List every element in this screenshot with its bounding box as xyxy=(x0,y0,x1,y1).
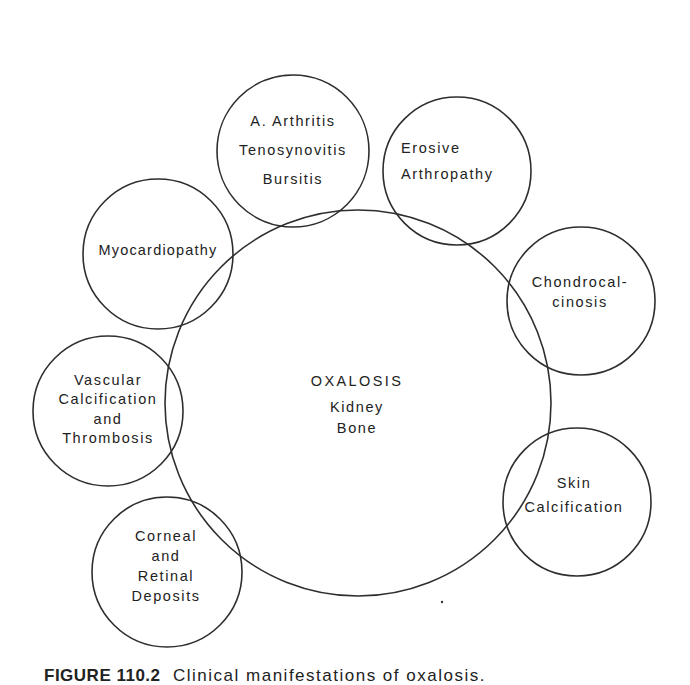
satellite-label: A. Arthritis xyxy=(250,113,335,129)
satellite-erosive-arthropathy: Erosive Arthropathy xyxy=(383,97,531,245)
satellite-label: Calcification xyxy=(525,499,624,515)
satellite-skin-calcification: Skin Calcification xyxy=(503,428,651,576)
print-speck xyxy=(441,601,443,603)
satellite-label: Bursitis xyxy=(263,171,323,187)
satellite-arthritis: A. Arthritis Tenosynovitis Bursitis xyxy=(217,75,369,227)
satellite-label: Tenosynovitis xyxy=(239,142,347,158)
satellite-corneal-retinal-deposits: Corneal and Retinal Deposits xyxy=(92,497,242,647)
satellite-label: Corneal xyxy=(135,528,197,544)
satellite-vascular-calcification: Vascular Calcification and Thrombosis xyxy=(33,336,183,486)
figure-caption-text: Clinical manifestations of oxalosis. xyxy=(173,666,486,685)
satellite-label: Calcification xyxy=(59,391,158,407)
satellite-label: Deposits xyxy=(131,588,200,604)
figure-label: FIGURE 110.2 xyxy=(44,666,161,685)
satellite-label: Myocardiopathy xyxy=(98,242,217,258)
satellite-myocardiopathy: Myocardiopathy xyxy=(83,179,233,329)
satellite-label: Erosive xyxy=(401,140,461,156)
satellite-label: and xyxy=(152,548,181,564)
satellite-label: cinosis xyxy=(552,294,608,310)
satellite-label: Retinal xyxy=(138,568,194,584)
satellite-label: Vascular xyxy=(74,372,142,388)
satellite-label: Chondrocal- xyxy=(532,274,629,290)
satellite-label: Thrombosis xyxy=(62,430,154,446)
center-line-bone: Bone xyxy=(337,420,377,436)
satellite-label: Skin xyxy=(557,475,592,491)
satellite-chondrocalcinosis: Chondrocal- cinosis xyxy=(507,227,655,375)
center-line-kidney: Kidney xyxy=(330,399,384,415)
satellite-label: Arthropathy xyxy=(401,166,494,182)
figure-caption: FIGURE 110.2 Clinical manifestations of … xyxy=(44,666,486,685)
center-title: OXALOSIS xyxy=(311,373,404,389)
satellite-label: and xyxy=(94,411,123,427)
